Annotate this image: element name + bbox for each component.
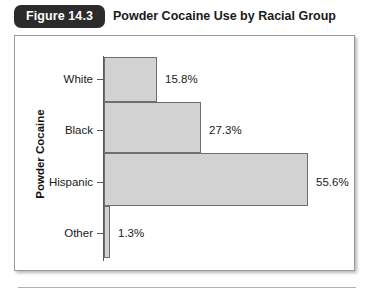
plot-area: Powder Cocaine White Black Hispanic Othe… [15, 36, 356, 272]
figure-title: Powder Cocaine Use by Racial Group [113, 5, 336, 28]
category-label-hispanic: Hispanic [49, 176, 93, 188]
bar-value-white: 15.8% [165, 73, 198, 85]
axis-tick [97, 79, 103, 80]
figure-number-badge: Figure 14.3 [14, 5, 105, 28]
bar-value-black: 27.3% [209, 124, 242, 136]
y-axis-title: Powder Cocaine [34, 84, 46, 224]
axis-tick [97, 130, 103, 131]
category-label-black: Black [65, 124, 93, 136]
bar-other [104, 206, 110, 258]
figure-header: Figure 14.3 Powder Cocaine Use by Racial… [0, 0, 366, 34]
bar-black [104, 102, 201, 153]
category-label-white: White [64, 73, 93, 85]
footer-divider [18, 287, 356, 288]
figure-number-label: Figure 14.3 [14, 5, 105, 28]
bar-value-other: 1.3% [118, 227, 144, 239]
axis-tick [97, 182, 103, 183]
axis-tick [97, 233, 103, 234]
bar-hispanic [104, 153, 308, 206]
bar-white [104, 57, 157, 102]
category-label-other: Other [64, 227, 93, 239]
chart-panel: Powder Cocaine White Black Hispanic Othe… [14, 35, 355, 271]
bar-value-hispanic: 55.6% [316, 176, 349, 188]
